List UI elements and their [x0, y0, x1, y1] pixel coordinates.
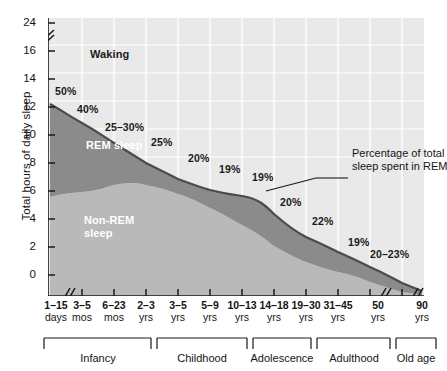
rem-percent-10: 19%	[348, 236, 369, 248]
annotation-line-2: sleep spent in REM	[352, 160, 447, 173]
bracket-infancy	[44, 338, 151, 349]
y-tick-0: 0	[10, 269, 36, 279]
plot-area: Waking REM sleep Non-REM sleep 50% 40% 2…	[48, 18, 424, 296]
x-tick-0: 1–15 days	[44, 300, 67, 323]
bracket-oldage	[396, 338, 436, 349]
rem-percent-11: 20–23%	[370, 248, 409, 260]
y-tick-6: 6	[10, 185, 36, 195]
x-axis-tick-labels: 1–15 days 3–5 mos 6–23 mos 2–3 yrs 3–5 y…	[0, 300, 440, 334]
rem-percent-1: 50%	[55, 85, 76, 97]
band-label-waking: Waking	[90, 48, 129, 60]
y-axis-tick-labels: 24 16 14 12 10 8 6 4 2 0	[10, 0, 36, 300]
annotation-line-1: Percentage of total	[352, 147, 444, 160]
rem-percent-6: 19%	[219, 163, 240, 175]
y-tick-24: 24	[10, 17, 36, 27]
band-label-nonrem-line2: sleep	[84, 227, 113, 239]
rem-percent-8: 20%	[280, 196, 301, 208]
y-tick-8: 8	[10, 157, 36, 167]
x-tick-7: 14–18 yrs	[259, 300, 288, 323]
x-tick-1: 3–5 mos	[72, 300, 92, 323]
x-tick-8: 19–30 yrs	[291, 300, 320, 323]
bracket-adulthood	[317, 338, 390, 349]
y-tick-10: 10	[10, 129, 36, 139]
stage-label-childhood: Childhood	[177, 352, 227, 364]
band-label-rem: REM sleep	[86, 139, 143, 151]
stage-label-oldage: Old age	[397, 352, 436, 364]
rem-percent-5: 20%	[188, 152, 209, 164]
x-tick-5: 5–9 yrs	[201, 300, 219, 323]
y-tick-12: 12	[10, 101, 36, 111]
bracket-childhood	[157, 338, 247, 349]
y-tick-2: 2	[10, 241, 36, 251]
y-tick-4: 4	[10, 213, 36, 223]
band-label-nonrem-line1: Non-REM	[84, 214, 134, 226]
life-stage-brackets: Infancy Childhood Adolescence Adulthood …	[0, 332, 440, 371]
bracket-adolescence	[253, 338, 311, 349]
rem-percent-9: 22%	[312, 215, 333, 227]
rem-percent-4: 25%	[151, 136, 172, 148]
x-tick-11: 90 yrs	[415, 300, 429, 323]
x-tick-4: 3–5 yrs	[169, 300, 187, 323]
y-tick-14: 14	[10, 73, 36, 83]
stage-label-adulthood: Adulthood	[329, 352, 379, 364]
x-tick-10: 50 yrs	[371, 300, 385, 323]
stage-label-infancy: Infancy	[80, 352, 115, 364]
rem-percent-7: 19%	[252, 171, 273, 183]
stage-label-adolescence: Adolescence	[251, 352, 314, 364]
x-tick-6: 10–13 yrs	[227, 300, 256, 323]
x-tick-3: 2–3 yrs	[137, 300, 155, 323]
x-tick-9: 31–45 yrs	[323, 300, 352, 323]
rem-percent-3: 25–30%	[105, 121, 144, 133]
y-tick-16: 16	[10, 45, 36, 55]
x-tick-2: 6–23 mos	[102, 300, 125, 323]
rem-percent-2: 40%	[77, 103, 98, 115]
